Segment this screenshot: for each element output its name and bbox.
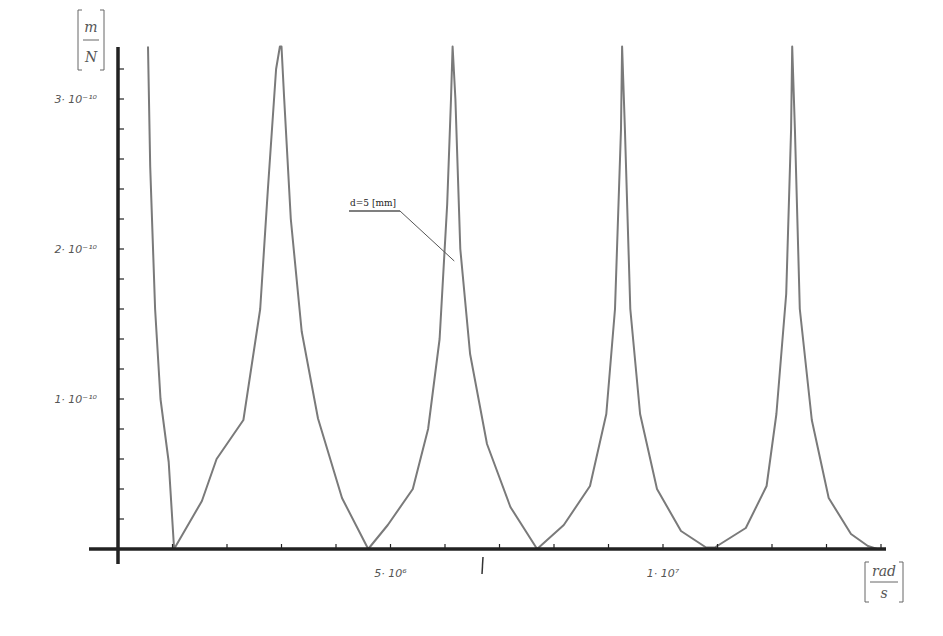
- tick-labels: 5· 10⁶1· 10⁷1· 10⁻¹⁰2· 10⁻¹⁰3· 10⁻¹⁰: [54, 93, 679, 580]
- x-unit-denominator: s: [880, 585, 887, 601]
- curve-layer: [148, 47, 877, 550]
- x-tick-label: 1· 10⁷: [647, 567, 680, 580]
- y-tick-label: 3· 10⁻¹⁰: [54, 93, 97, 106]
- chart: 5· 10⁶1· 10⁷1· 10⁻¹⁰2· 10⁻¹⁰3· 10⁻¹⁰ m N…: [0, 0, 943, 636]
- x-tick-label: 5· 10⁶: [374, 567, 407, 580]
- annotation-label: d=5 [mm]: [350, 198, 396, 208]
- stray-mark: [482, 557, 483, 574]
- y-unit-denominator: N: [84, 49, 98, 65]
- annotation: d=5 [mm]: [349, 198, 454, 261]
- x-unit-label: rad s: [865, 562, 903, 602]
- y-unit-numerator: m: [84, 19, 97, 35]
- y-tick-label: 2· 10⁻¹⁰: [54, 243, 97, 256]
- y-tick-label: 1· 10⁻¹⁰: [54, 393, 97, 406]
- x-unit-numerator: rad: [872, 563, 896, 579]
- y-unit-label: m N: [78, 10, 104, 70]
- series-line-0: [148, 47, 877, 550]
